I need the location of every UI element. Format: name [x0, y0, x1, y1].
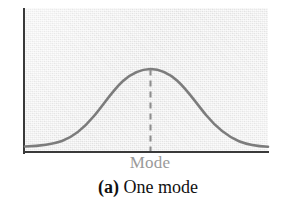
figure-caption: (a) One mode	[0, 176, 296, 198]
figure-one-mode: Mode (a) One mode	[0, 0, 296, 210]
mode-axis-label: Mode	[0, 153, 296, 173]
caption-text: One mode	[124, 177, 198, 197]
bell-curve-path	[25, 69, 268, 147]
caption-label: (a)	[98, 177, 119, 197]
